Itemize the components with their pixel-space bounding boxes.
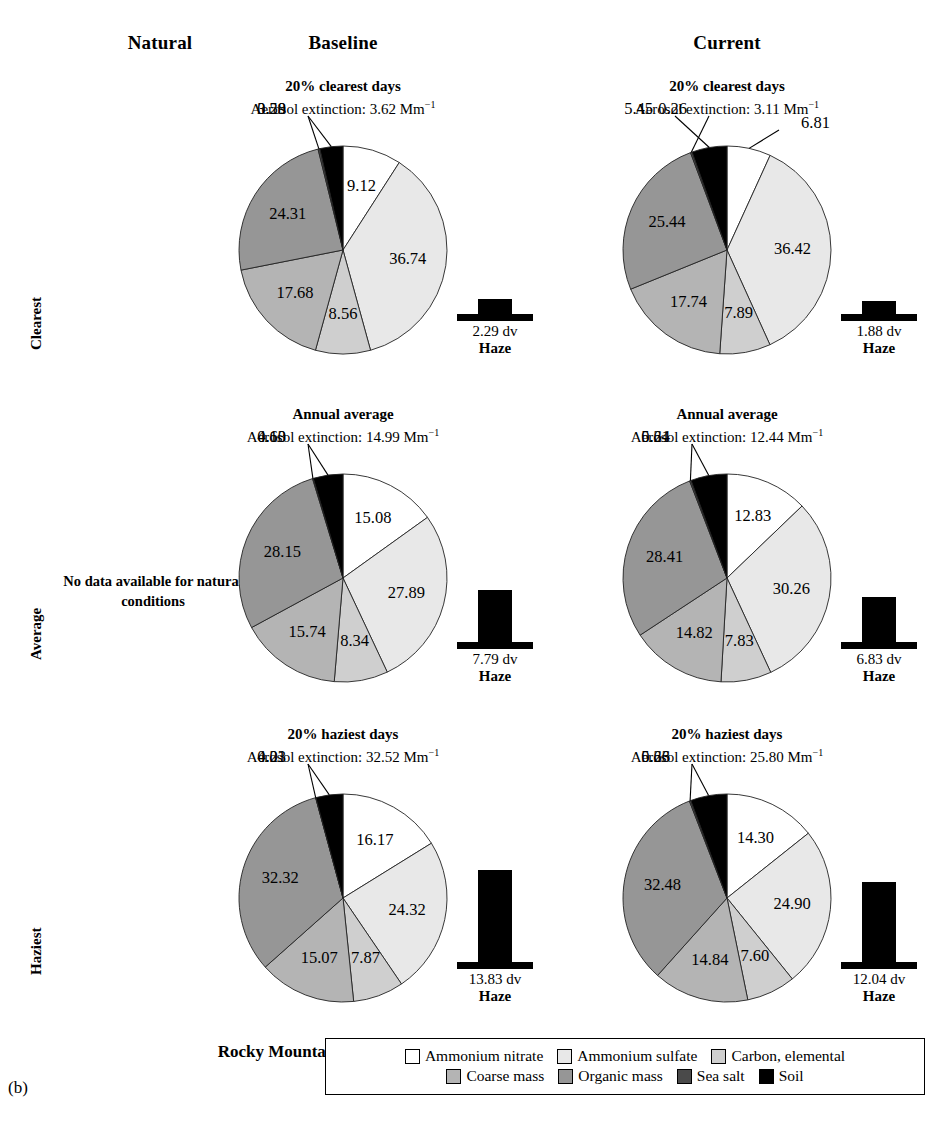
slice-value-label: 28.41 [646,547,683,566]
slice-value-label: 36.74 [389,249,426,268]
legend-item-ammonium-sulfate: Ammonium sulfate [557,1046,697,1066]
legend-swatch-icon [405,1049,420,1064]
haze-bar-wrap [435,202,555,314]
legend-swatch-icon [677,1069,692,1084]
legend-label: Sea salt [697,1066,745,1086]
slice-value-label: 15.07 [301,948,338,967]
slice-value-label-external: 0.26 [658,99,687,118]
slice-value-label-external: 6.81 [801,113,830,132]
slice-value-label: 24.32 [389,900,426,919]
leader-line [690,764,692,801]
haze-caption: Haze [435,668,555,685]
leader-line [692,764,709,796]
slice-value-label: 25.44 [648,212,685,231]
legend-swatch-icon [759,1069,774,1084]
haze-value: 7.79 dv [435,651,555,668]
haze-baseline [841,314,917,321]
legend-row: Coarse massOrganic massSea saltSoil [334,1066,916,1086]
slice-value-label: 7.87 [351,948,380,967]
site-name: Rocky Mountain [120,1042,340,1062]
leader-line [308,116,331,147]
slice-value-label-external: 4.60 [257,427,286,446]
slice-value-label: 32.32 [262,868,299,887]
haze-value: 12.04 dv [819,971,939,988]
row-label-haziest: Haziest [28,928,45,975]
haze-caption: Haze [819,340,939,357]
haze-bar [862,882,896,962]
leader-line [749,130,779,148]
haze-value: 13.83 dv [435,971,555,988]
legend-label: Ammonium nitrate [425,1046,543,1066]
haze-bar [478,590,512,642]
slice-value-label: 15.08 [354,508,391,527]
haze-indicator-current-clearest: 1.88 dvHaze [819,202,939,357]
leader-line [308,116,319,149]
legend-label: Organic mass [578,1066,663,1086]
slice-value-label-external: 3.59 [257,99,286,118]
slice-value-label: 16.17 [356,830,393,849]
column-header-current: Current [612,32,842,54]
legend: Ammonium nitrateAmmonium sulfateCarbon, … [325,1038,925,1095]
row-label-average: Average [28,608,45,660]
haze-bar-wrap [819,202,939,314]
legend-item-carbon-elemental: Carbon, elemental [711,1046,845,1066]
row-label-clearest: Clearest [28,297,45,350]
leader-line [675,116,709,148]
haze-indicator-baseline-average: 7.79 dvHaze [435,530,555,685]
slice-value-label: 14.30 [737,828,774,847]
legend-row: Ammonium nitrateAmmonium sulfateCarbon, … [334,1046,916,1066]
leader-line [692,444,709,476]
legend-label: Soil [779,1066,804,1086]
slice-value-label: 30.26 [773,579,810,598]
haze-indicator-current-haziest: 12.04 dvHaze [819,850,939,1005]
haze-value: 6.83 dv [819,651,939,668]
legend-item-organic-mass: Organic mass [558,1066,663,1086]
haze-caption: Haze [819,668,939,685]
haze-indicator-baseline-haziest: 13.83 dvHaze [435,850,555,1005]
haze-indicator-baseline-clearest: 2.29 dvHaze [435,202,555,357]
haze-bar [478,299,512,314]
legend-item-soil: Soil [759,1066,804,1086]
haze-bar-wrap [435,530,555,642]
haze-bar [478,870,512,962]
legend-swatch-icon [558,1069,573,1084]
slice-value-label: 8.56 [329,304,358,323]
slice-value-label: 9.12 [347,176,376,195]
haze-indicator-current-average: 6.83 dvHaze [819,530,939,685]
legend-item-sea-salt: Sea salt [677,1066,745,1086]
haze-bar [862,301,896,314]
legend-swatch-icon [557,1049,572,1064]
haze-baseline [457,642,533,649]
haze-baseline [841,962,917,969]
slice-value-label: 14.82 [676,623,713,642]
slice-value-label: 27.89 [388,583,425,602]
slice-value-label: 12.83 [734,506,771,525]
legend-swatch-icon [711,1049,726,1064]
legend-label: Ammonium sulfate [577,1046,697,1066]
slice-value-label-external: 4.21 [257,747,286,766]
haze-caption: Haze [435,340,555,357]
leader-line [308,444,313,478]
slice-value-label-external: 5.66 [641,747,670,766]
slice-value-label: 17.74 [670,292,707,311]
slice-value-label: 8.34 [340,631,369,650]
haze-bar-wrap [435,850,555,962]
slice-value-label: 28.15 [264,542,301,561]
legend-item-ammonium-nitrate: Ammonium nitrate [405,1046,543,1066]
leader-line [308,444,328,475]
slice-value-label: 7.89 [724,303,753,322]
haze-value: 2.29 dv [435,323,555,340]
haze-value: 1.88 dv [819,323,939,340]
slice-value-label-external: 5.45 [624,99,653,118]
panel-label: (b) [8,1078,28,1098]
slice-value-label: 7.83 [725,631,754,650]
slice-value-label: 24.31 [269,204,306,223]
haze-bar [862,597,896,642]
slice-value-label-external: 5.61 [641,427,670,446]
slice-value-label: 14.84 [691,950,728,969]
slice-value-label: 7.60 [740,946,769,965]
legend-label: Carbon, elemental [731,1046,845,1066]
legend-swatch-icon [446,1069,461,1084]
haze-baseline [457,962,533,969]
slice-value-label: 36.42 [774,239,811,258]
